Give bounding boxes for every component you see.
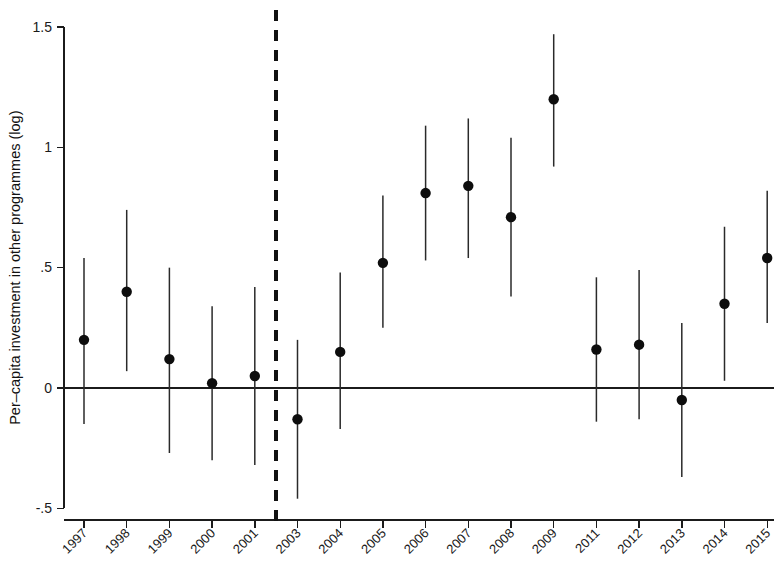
point-estimate-marker <box>506 212 516 222</box>
point-estimate-marker <box>719 299 729 309</box>
estimate-point-group <box>420 126 430 261</box>
x-tick-label: 2015 <box>742 526 773 557</box>
x-tick-label: 1998 <box>102 526 133 557</box>
y-axis-label: Per–capita investment in other programme… <box>7 111 23 425</box>
x-tick-label: 1997 <box>59 526 90 557</box>
point-estimate-marker <box>591 344 601 354</box>
estimate-point-group <box>378 195 388 327</box>
y-tick-label: 1.5 <box>33 19 53 35</box>
estimate-point-group <box>292 340 302 499</box>
x-tick-label: 2008 <box>486 526 517 557</box>
x-tick-label: 2007 <box>443 526 474 557</box>
y-tick-label: -.5 <box>36 500 53 516</box>
y-tick-label: 1 <box>44 139 52 155</box>
x-tick-label: 2000 <box>187 526 218 557</box>
point-estimate-marker <box>463 181 473 191</box>
y-tick-label: .5 <box>40 259 52 275</box>
x-tick-label: 2009 <box>529 526 560 557</box>
estimate-point-group <box>207 306 217 460</box>
x-tick-label: 2012 <box>614 526 645 557</box>
x-tick-label: 2001 <box>230 526 261 557</box>
estimate-point-group <box>463 118 473 258</box>
estimate-point-group <box>719 227 729 381</box>
x-tick-label: 1999 <box>144 526 175 557</box>
point-estimate-marker <box>164 354 174 364</box>
plot-canvas: -.50.511.5 19971998199920002001200320042… <box>0 0 774 587</box>
x-tick-label: 2003 <box>273 526 304 557</box>
estimate-point-group <box>591 277 601 421</box>
point-estimate-marker <box>250 371 260 381</box>
x-tick-label: 2013 <box>657 526 688 557</box>
point-estimate-marker <box>634 339 644 349</box>
estimate-point-group <box>122 210 132 371</box>
estimate-point-group <box>677 323 687 477</box>
coefficient-plot-figure: -.50.511.5 19971998199920002001200320042… <box>0 0 774 587</box>
point-estimate-marker <box>79 335 89 345</box>
point-estimate-marker <box>677 395 687 405</box>
point-estimate-marker <box>292 414 302 424</box>
point-estimate-marker <box>335 347 345 357</box>
x-axis: 1997199819992000200120032004200520062007… <box>59 520 774 557</box>
estimate-point-group <box>634 270 644 419</box>
estimate-point-group <box>549 34 559 166</box>
estimate-point-group <box>506 138 516 297</box>
x-tick-label: 2014 <box>700 526 731 557</box>
point-estimate-marker <box>420 188 430 198</box>
y-tick-label: 0 <box>44 380 52 396</box>
point-estimate-marker <box>378 258 388 268</box>
x-tick-label: 2005 <box>358 526 389 557</box>
y-axis: -.50.511.5 <box>33 19 64 516</box>
x-tick-label: 2004 <box>315 526 346 557</box>
point-estimate-marker <box>549 94 559 104</box>
point-estimate-marker <box>207 378 217 388</box>
x-tick-label: 2011 <box>572 526 602 556</box>
point-estimate-marker <box>762 253 772 263</box>
estimate-series <box>79 34 773 498</box>
estimate-point-group <box>762 191 772 323</box>
estimate-point-group <box>335 272 345 428</box>
y-axis-title: Per–capita investment in other programme… <box>7 111 23 425</box>
estimate-point-group <box>164 268 174 453</box>
point-estimate-marker <box>122 287 132 297</box>
x-tick-label: 2006 <box>401 526 432 557</box>
estimate-point-group <box>79 258 89 424</box>
estimate-point-group <box>250 287 260 465</box>
